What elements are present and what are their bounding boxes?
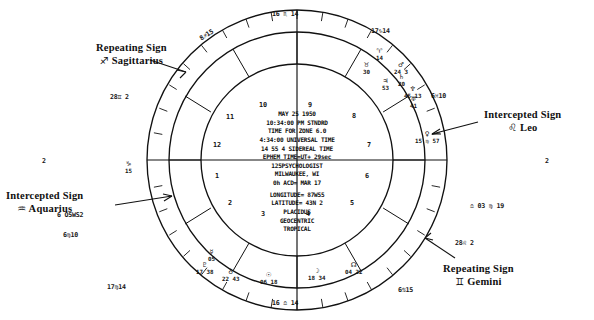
planet-glyph-icon: ♇ bbox=[196, 262, 213, 269]
cusp-label-right-upper: 6♓10 bbox=[431, 92, 446, 100]
planet-degree: 06 18 bbox=[260, 279, 277, 285]
data-time-local: 10:34:00 PM STNDRD bbox=[232, 119, 362, 128]
planet-marker-p11: ♁22 43 bbox=[222, 269, 239, 282]
annotation-gemini-sign: Gemini bbox=[467, 276, 501, 287]
planet-glyph-icon: ♄ bbox=[398, 74, 405, 81]
house-number-7: 7 bbox=[367, 141, 371, 149]
data-longitude: LONGITUDE= 87W55 bbox=[232, 191, 362, 200]
data-zone: TIME FOR ZONE 6.0 bbox=[232, 127, 362, 136]
chart-data-block: MAY 25 1950 10:34:00 PM STNDRD TIME FOR … bbox=[232, 110, 362, 234]
planet-degree: 30 bbox=[363, 69, 370, 75]
cusp-label-right-mid: 2 bbox=[545, 157, 549, 165]
house-number-6: 6 bbox=[365, 172, 369, 180]
sagittarius-glyph-icon: ♐ bbox=[100, 55, 109, 66]
cusp-label-bottom: 16 ♎ 14 bbox=[272, 299, 298, 307]
cusp-label-left-lower: 6 O5WS2 bbox=[57, 211, 83, 219]
data-city: MILWAUKEE, WI bbox=[232, 170, 362, 179]
data-occupation: 125PSYCHOLOGIST bbox=[232, 162, 362, 171]
planet-marker-p13: ☽18 34 bbox=[308, 268, 325, 281]
data-time-ut: 4:34:00 UNIVERSAL TIME bbox=[232, 136, 362, 145]
planet-degree: 22 43 bbox=[222, 276, 239, 282]
planet-glyph-icon: ♂ bbox=[394, 62, 408, 69]
planet-glyph-icon: ♅ bbox=[410, 96, 417, 103]
data-acd: 0h ACD= MAR 17 bbox=[232, 179, 362, 188]
cusp-label-left-upper: 28♊ 2 bbox=[110, 93, 129, 101]
planet-degree: 14 bbox=[376, 55, 383, 61]
cusp-label-bottom-right: 6♋15 bbox=[398, 286, 413, 294]
planet-marker-p2: ♉30 bbox=[363, 62, 370, 75]
planet-degree: 15 ♍ 57 bbox=[415, 138, 439, 144]
annotation-sagittarius-sign: Sagittarius bbox=[112, 55, 163, 66]
cusp-label-right-lower: ♎ 03 ♍ 19 bbox=[470, 202, 504, 210]
planet-marker-p9: ☿05 bbox=[208, 249, 215, 262]
planet-glyph-icon: ☽ bbox=[308, 268, 325, 275]
planet-marker-p8: ♀15 ♍ 57 bbox=[415, 131, 439, 144]
annotation-leo-line2: ♌ Leo bbox=[484, 121, 561, 135]
data-house-system: PLACIDUS bbox=[232, 208, 362, 217]
leo-glyph-icon: ♌ bbox=[508, 122, 517, 133]
data-sidereal: 14 55 4 SIDEREAL TIME bbox=[232, 145, 362, 154]
house-number-1: 1 bbox=[215, 172, 219, 180]
arrow-gemini bbox=[425, 238, 455, 258]
cusp-label-upper-right: 17♑14 bbox=[371, 27, 390, 35]
data-frame: GEOCENTRIC bbox=[232, 217, 362, 226]
data-ephem: EPHEM TIME=UT+ 29sec bbox=[232, 153, 362, 162]
data-zodiac: TROPICAL bbox=[232, 225, 362, 234]
planet-glyph-icon: ☊ bbox=[345, 262, 362, 269]
planet-glyph-icon: ☉ bbox=[260, 272, 277, 279]
data-latitude: LATITUDE= 43N 2 bbox=[232, 199, 362, 208]
house-number-10: 10 bbox=[259, 101, 267, 109]
planet-marker-p1: ♈14 bbox=[376, 48, 383, 61]
planet-degree: 17 38 bbox=[196, 269, 213, 275]
gemini-glyph-icon: ♊ bbox=[455, 276, 464, 287]
planet-marker-p7: ♅41 bbox=[410, 96, 417, 109]
planet-marker-p10: ♇17 38 bbox=[196, 262, 213, 275]
planet-glyph-icon: ♁ bbox=[222, 269, 239, 276]
cusp-label-top: 16 ♏ 14 bbox=[272, 10, 298, 18]
annotation-sagittarius: Repeating Sign ♐ Sagittarius bbox=[96, 41, 167, 68]
arrow-aquarius bbox=[115, 196, 172, 205]
data-date: MAY 25 1950 bbox=[232, 110, 362, 119]
cusp-label-left-mid: 2 bbox=[42, 157, 46, 165]
planet-glyph-icon: ♉ bbox=[363, 62, 370, 69]
cusp-label-lower-left: 6♍10 bbox=[63, 231, 78, 239]
planet-marker-p14: ☊04 22 bbox=[345, 262, 362, 275]
planet-degree: 15 bbox=[125, 168, 132, 174]
annotation-leo-sign: Leo bbox=[520, 122, 538, 133]
annotation-sagittarius-line1: Repeating Sign bbox=[96, 42, 167, 53]
annotation-leo-line1: Intercepted Sign bbox=[484, 109, 561, 120]
annotation-sagittarius-line2: ♐ Sagittarius bbox=[96, 54, 167, 68]
annotation-leo: Intercepted Sign ♌ Leo bbox=[484, 108, 561, 135]
chart-canvas: Repeating Sign ♐ Sagittarius Intercepted… bbox=[0, 0, 594, 320]
house-number-9: 9 bbox=[308, 101, 312, 109]
annotation-gemini: Repeating Sign ♊ Gemini bbox=[443, 262, 514, 289]
planet-degree: 18 34 bbox=[308, 275, 325, 281]
planet-glyph-icon: ♀ bbox=[415, 131, 439, 138]
planet-glyph-icon: ♃ bbox=[382, 78, 389, 85]
annotation-gemini-line2: ♊ Gemini bbox=[443, 275, 514, 289]
planet-marker-p12: ☉06 18 bbox=[260, 272, 277, 285]
cusp-label-bottom-left: 17♍14 bbox=[107, 283, 126, 291]
planet-marker-p15: ♑15 bbox=[125, 161, 132, 174]
house-number-12: 12 bbox=[213, 141, 221, 149]
cusp-label-lower-right: 28♌ 2 bbox=[455, 239, 474, 247]
planet-glyph-icon: ♑ bbox=[125, 161, 132, 168]
planet-degree: 04 22 bbox=[345, 269, 362, 275]
annotation-aquarius-line1: Intercepted Sign bbox=[6, 190, 83, 201]
planet-glyph-icon: ☿ bbox=[208, 249, 215, 256]
planet-glyph-icon: ♈ bbox=[376, 48, 383, 55]
planet-glyph-icon: ♆ bbox=[404, 86, 421, 93]
planet-marker-p5: ♃53 bbox=[382, 78, 389, 91]
annotation-gemini-line1: Repeating Sign bbox=[443, 263, 514, 274]
planet-degree: 41 bbox=[410, 103, 417, 109]
aquarius-glyph-icon: ♒ bbox=[17, 203, 26, 214]
planet-degree: 53 bbox=[382, 85, 389, 91]
